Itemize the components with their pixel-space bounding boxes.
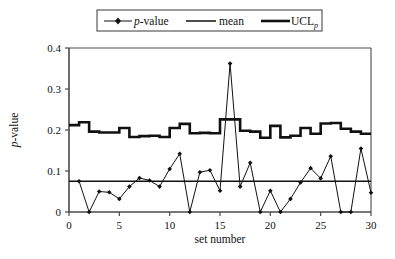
data-point-marker (198, 170, 203, 175)
x-axis-title: set number (195, 233, 246, 245)
series-ucl-line (69, 119, 371, 137)
x-axis-ticks: 051015202530 (66, 212, 377, 231)
chart-figure: p-value mean UCLp 00.10.20.30.4 05101520… (0, 0, 395, 259)
data-point-marker (349, 210, 354, 215)
legend-label-mean: mean (219, 15, 244, 27)
data-point-marker (369, 190, 374, 195)
data-point-marker (228, 61, 233, 66)
y-tick-label: 0.4 (47, 42, 61, 54)
data-point-marker (208, 168, 213, 173)
p-chart-svg: p-value mean UCLp 00.10.20.30.4 05101520… (0, 0, 395, 259)
data-point-marker (258, 210, 263, 215)
x-tick-label: 10 (164, 219, 176, 231)
x-tick-label: 0 (66, 219, 72, 231)
data-point-marker (157, 184, 162, 189)
data-point-marker (188, 210, 193, 215)
y-tick-label: 0.3 (47, 83, 61, 95)
x-tick-label: 5 (117, 219, 123, 231)
x-tick-label: 25 (315, 219, 327, 231)
y-tick-label: 0 (56, 206, 62, 218)
data-point-marker (97, 189, 102, 194)
data-point-marker (87, 210, 92, 215)
data-point-marker (268, 188, 273, 193)
data-point-marker (359, 146, 364, 151)
x-tick-label: 20 (265, 219, 277, 231)
data-point-marker (218, 188, 223, 193)
data-point-marker (238, 184, 243, 189)
data-point-marker (248, 161, 253, 166)
y-axis-title-rest: -value (8, 113, 20, 142)
y-axis-title: p-value (8, 113, 21, 148)
y-tick-label: 0.1 (47, 165, 61, 177)
legend-label-p-value: p-value (133, 15, 168, 28)
legend-label-p-value-rest: -value (140, 15, 169, 27)
data-point-marker (339, 210, 344, 215)
data-point-marker (328, 154, 333, 159)
legend-label-ucl-sub: p (313, 21, 318, 30)
y-tick-label: 0.2 (47, 124, 61, 136)
x-tick-label: 30 (366, 219, 378, 231)
data-series-layer (69, 61, 373, 214)
x-tick-label: 15 (215, 219, 227, 231)
series-p-value-line (79, 64, 371, 212)
legend-label-ucl-main: UCL (291, 15, 314, 27)
series-p-value-markers (77, 61, 374, 214)
y-axis-ticks: 00.10.20.30.4 (47, 42, 69, 218)
chart-legend: p-value mean UCLp (97, 10, 322, 31)
data-point-marker (147, 178, 152, 183)
data-point-marker (77, 179, 82, 184)
